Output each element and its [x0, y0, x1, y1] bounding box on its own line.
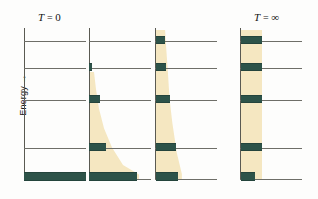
panel-4: T = ∞ — [0, 0, 318, 199]
panel-4-bar-level-3 — [241, 95, 262, 103]
panel-4-envelope-fill — [240, 30, 262, 180]
panel-4-title: T = ∞ — [254, 11, 279, 23]
panel-4-title-equals: = — [263, 12, 269, 23]
panel-4-title-symbol: T — [254, 11, 260, 23]
panel-4-bar-level-1 — [241, 172, 255, 181]
panel-4-envelope — [240, 30, 262, 180]
panel-4-bar-level-2 — [241, 143, 262, 151]
panel-4-axis — [240, 28, 241, 180]
boltzmann-distribution-figure: Energy → T = 0 — [0, 0, 318, 199]
panel-4-bar-level-5 — [241, 36, 262, 44]
panel-4-bar-level-4 — [241, 63, 262, 71]
panel-4-title-value: ∞ — [271, 11, 279, 23]
